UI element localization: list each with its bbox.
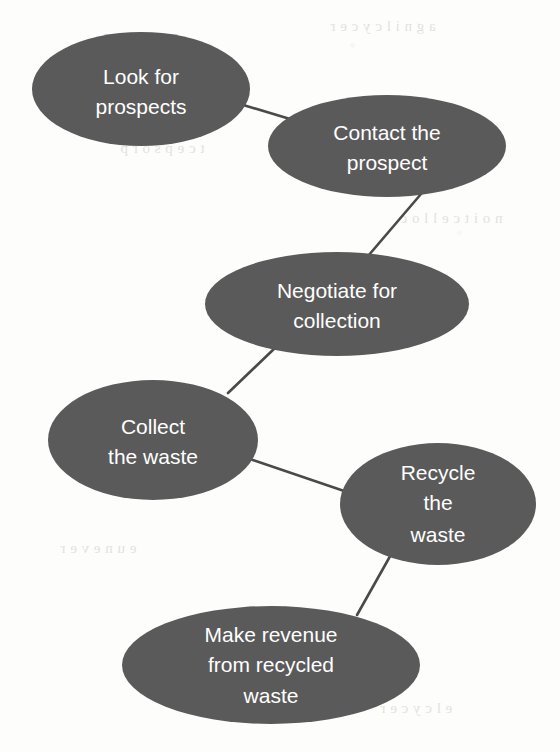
node-label: prospect xyxy=(347,151,428,174)
node-label: waste xyxy=(243,684,299,707)
node-label: from recycled xyxy=(208,653,334,676)
node-look-for-prospects[interactable]: Look for prospects xyxy=(32,32,250,146)
node-label: Negotiate for xyxy=(277,279,397,302)
node-label: prospects xyxy=(95,95,186,118)
node-label: the waste xyxy=(108,445,198,468)
node-recycle-the-waste[interactable]: Recycle the waste xyxy=(340,443,536,565)
flowchart-svg: Look for prospects Contact the prospect … xyxy=(0,0,560,752)
node-label: the xyxy=(423,491,452,514)
connector-contact-to-negotiate xyxy=(368,194,421,256)
node-label: Recycle xyxy=(401,461,476,484)
node-shape[interactable] xyxy=(48,380,258,500)
connector-negotiate-to-collect xyxy=(228,347,276,393)
node-label: waste xyxy=(410,523,466,546)
node-shape[interactable] xyxy=(32,32,250,146)
node-label: Look for xyxy=(103,65,179,88)
node-shape[interactable] xyxy=(268,95,506,197)
node-label: collection xyxy=(293,309,381,332)
connector-recycle-to-revenue xyxy=(357,551,393,615)
node-shape[interactable] xyxy=(205,252,469,356)
node-label: Contact the xyxy=(333,121,440,144)
diagram-canvas: a g n i l c y c e r e t s a w n o i t c … xyxy=(0,0,560,752)
node-contact-the-prospect[interactable]: Contact the prospect xyxy=(268,95,506,197)
node-negotiate-for-collection[interactable]: Negotiate for collection xyxy=(205,252,469,356)
connector-collect-to-recycle xyxy=(250,459,350,493)
node-make-revenue-from-recycled-waste[interactable]: Make revenue from recycled waste xyxy=(122,606,420,724)
node-label: Collect xyxy=(121,415,185,438)
node-label: Make revenue xyxy=(204,623,337,646)
node-collect-the-waste[interactable]: Collect the waste xyxy=(48,380,258,500)
